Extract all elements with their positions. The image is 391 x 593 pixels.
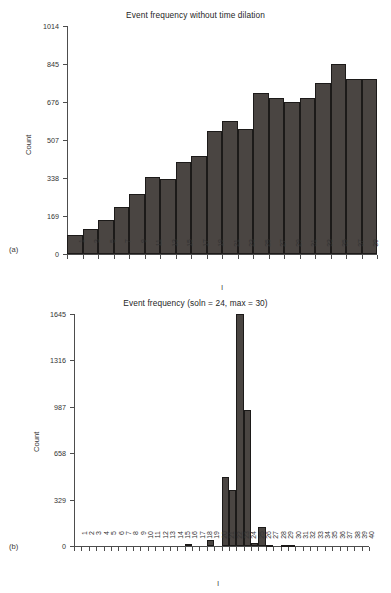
y-axis-tick-label: 0 [32, 542, 66, 551]
panel-a-label: (a) [9, 245, 18, 254]
y-axis-tick [63, 64, 67, 65]
bar [244, 410, 251, 546]
x-axis-tick-label: 29 [287, 531, 294, 553]
y-axis-tick-label: 169 [25, 212, 59, 221]
bar [362, 79, 378, 254]
x-axis-tick-label: 38 [354, 531, 361, 553]
panel-b-title: Event frequency (soln = 24, max = 30) [0, 298, 391, 308]
x-axis-tick-label: 17 [202, 239, 209, 261]
x-axis-tick-label: 19 [217, 239, 224, 261]
y-axis-tick-label: 329 [32, 496, 66, 505]
x-axis-tick-label: 8 [132, 531, 139, 553]
bar [238, 129, 254, 254]
x-axis-tick-label: 33 [317, 531, 324, 553]
panel-b: Event frequency (soln = 24, max = 30) (b… [0, 292, 391, 593]
y-axis-tick [70, 314, 74, 315]
x-axis-tick-label: 3 [95, 531, 102, 553]
x-axis-tick [67, 255, 68, 259]
bar [315, 83, 331, 254]
panel-b-plot-area: 0329658987131616451234567891011121314151… [74, 314, 369, 546]
bar [300, 98, 316, 254]
y-axis-tick [70, 407, 74, 408]
x-axis-tick-label: 19 [213, 531, 220, 553]
x-axis-tick-label: 37 [357, 239, 364, 261]
bar [346, 79, 362, 254]
x-axis-tick-label: 5 [110, 531, 117, 553]
x-axis-tick-label: 15 [184, 531, 191, 553]
x-axis-tick [74, 547, 75, 551]
y-axis-tick [70, 453, 74, 454]
x-axis-tick-label: 33 [326, 239, 333, 261]
x-axis-tick-label: 35 [341, 239, 348, 261]
bar [331, 64, 347, 254]
panel-b-y-axis-title: Count [32, 432, 41, 452]
x-axis-tick-label: 30 [295, 531, 302, 553]
x-axis-tick-label: 21 [228, 531, 235, 553]
x-axis-tick-label: 40 [368, 531, 375, 553]
x-axis-tick-label: 24 [250, 531, 257, 553]
x-axis-tick-label: 1 [78, 239, 85, 261]
x-axis-tick-label: 4 [103, 531, 110, 553]
y-axis-tick [63, 140, 67, 141]
x-axis-tick-label: 25 [264, 239, 271, 261]
x-axis-tick-label: 14 [177, 531, 184, 553]
x-axis-tick-label: 9 [140, 239, 147, 261]
x-axis-tick-label: 15 [186, 239, 193, 261]
x-axis-tick-label: 13 [171, 239, 178, 261]
y-axis-tick-label: 1316 [32, 356, 66, 365]
y-axis-tick-label: 987 [32, 403, 66, 412]
panel-a-title: Event frequency without time dilation [0, 10, 391, 20]
panel-a: Event frequency without time dilation (a… [0, 0, 391, 297]
bar [253, 93, 269, 254]
x-axis-tick-label: 13 [169, 531, 176, 553]
y-axis-tick [63, 178, 67, 179]
y-axis-tick-label: 0 [25, 250, 59, 259]
x-axis-tick-label: 36 [339, 531, 346, 553]
x-axis-tick-label: 37 [346, 531, 353, 553]
x-axis-tick-label: 26 [265, 531, 272, 553]
x-axis-tick-label: 17 [199, 531, 206, 553]
y-axis-tick-label: 1645 [32, 310, 66, 319]
x-axis-tick-label: 6 [118, 531, 125, 553]
x-axis-tick-label: 3 [93, 239, 100, 261]
x-axis-tick-label: 20 [221, 531, 228, 553]
x-axis-tick-label: 11 [155, 239, 162, 261]
x-axis-tick-label: 39 [372, 239, 379, 261]
panel-a-x-axis-title: l [202, 283, 242, 292]
y-axis-tick [63, 216, 67, 217]
bar [222, 121, 238, 254]
y-axis-tick-label: 845 [25, 60, 59, 69]
y-axis-line [74, 314, 75, 546]
y-axis-tick-label: 338 [25, 174, 59, 183]
x-axis-tick-label: 12 [162, 531, 169, 553]
x-axis-tick-label: 35 [331, 531, 338, 553]
bar [284, 102, 300, 254]
y-axis-line [67, 26, 68, 254]
x-axis-tick-label: 31 [310, 239, 317, 261]
y-axis-tick [70, 360, 74, 361]
x-axis-tick-label: 32 [309, 531, 316, 553]
x-axis-tick-label: 16 [191, 531, 198, 553]
x-axis-tick-label: 27 [272, 531, 279, 553]
x-axis-tick-label: 29 [295, 239, 302, 261]
panel-a-y-axis-title: Count [24, 135, 33, 155]
x-axis-tick-label: 1 [81, 531, 88, 553]
panel-a-plot-area: 0169338507676845101413579111315171921232… [67, 26, 377, 254]
x-axis-tick-label: 2 [88, 531, 95, 553]
bar [207, 131, 223, 254]
x-axis-tick-label: 27 [279, 239, 286, 261]
y-axis-tick-label: 676 [25, 98, 59, 107]
y-axis-tick [70, 500, 74, 501]
panel-b-x-axis-title: l [198, 579, 238, 588]
x-axis-tick-label: 23 [248, 239, 255, 261]
x-axis-tick-label: 22 [236, 531, 243, 553]
x-axis-tick-label: 28 [280, 531, 287, 553]
x-axis-tick-label: 39 [361, 531, 368, 553]
x-axis-tick-label: 9 [140, 531, 147, 553]
x-axis-tick-label: 34 [324, 531, 331, 553]
y-axis-tick [63, 26, 67, 27]
panel-b-label: (b) [9, 542, 18, 551]
x-axis-tick-label: 10 [147, 531, 154, 553]
y-axis-tick-label: 1014 [25, 22, 59, 31]
figure-container: Event frequency without time dilation (a… [0, 0, 391, 593]
